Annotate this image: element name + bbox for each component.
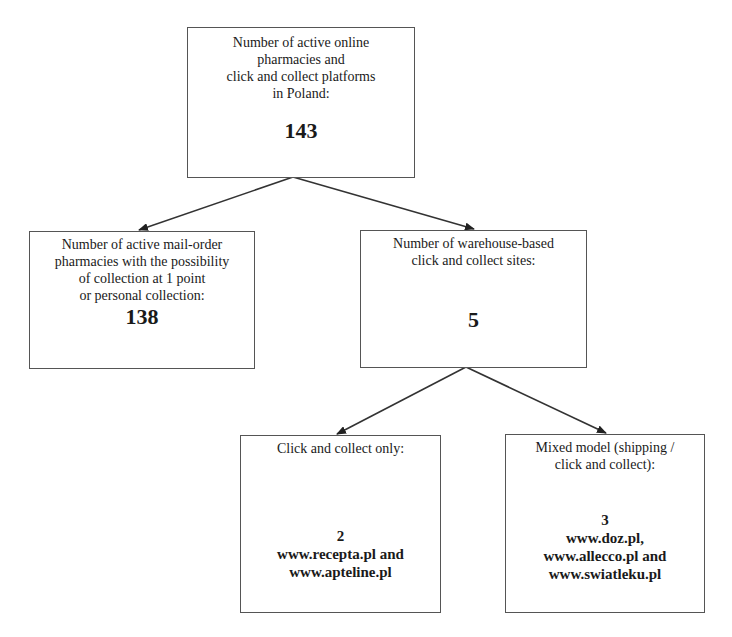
root-label-line: click and collect platforms: [188, 68, 414, 85]
warehouse-label-line: Number of warehouse-based: [361, 235, 586, 252]
root-label-line: in Poland:: [188, 85, 414, 102]
mail-order-label-line: of collection at 1 point: [30, 270, 254, 287]
click-collect-only-site: www.recepta.pl and: [241, 545, 440, 563]
warehouse-value: 5: [361, 307, 586, 333]
mail-order-label-line: or personal collection:: [30, 287, 254, 304]
arrow-root-to-mail-order: [139, 177, 293, 230]
root-value: 143: [188, 118, 414, 144]
mixed-model-node-box: Mixed model (shipping / click and collec…: [505, 434, 705, 613]
mail-order-label-line: Number of active mail-order: [30, 236, 254, 253]
mail-order-node-box: Number of active mail-order pharmacies w…: [29, 231, 255, 369]
root-node-box: Number of active online pharmacies and c…: [187, 27, 415, 178]
click-collect-only-node-box: Click and collect only: 2 www.recepta.pl…: [240, 435, 441, 613]
click-collect-only-label: Click and collect only:: [241, 440, 440, 457]
mixed-model-value: 3: [506, 511, 704, 529]
mixed-model-label-line: Mixed model (shipping /: [506, 439, 704, 456]
mixed-model-label-line: click and collect):: [506, 456, 704, 473]
arrow-warehouse-to-mixed: [466, 367, 606, 433]
click-collect-only-site: www.apteline.pl: [241, 563, 440, 581]
mixed-model-site: www.doz.pl,: [506, 529, 704, 547]
root-label-line: pharmacies and: [188, 51, 414, 68]
mail-order-value: 138: [30, 304, 254, 330]
mixed-model-site: www.allecco.pl and: [506, 547, 704, 565]
click-collect-only-value: 2: [241, 527, 440, 545]
arrow-warehouse-to-click-collect: [337, 367, 466, 434]
warehouse-label-line: click and collect sites:: [361, 252, 586, 269]
warehouse-node-box: Number of warehouse-based click and coll…: [360, 230, 587, 368]
arrow-root-to-warehouse: [293, 177, 474, 229]
root-label-line: Number of active online: [188, 34, 414, 51]
mixed-model-site: www.swiatleku.pl: [506, 565, 704, 583]
mail-order-label-line: pharmacies with the possibility: [30, 253, 254, 270]
